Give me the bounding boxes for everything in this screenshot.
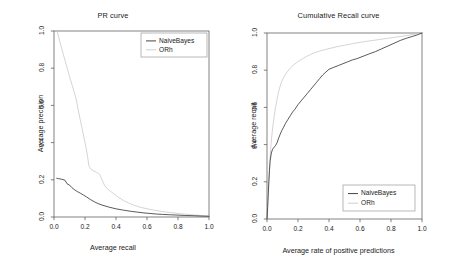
pr-y-tick-5: 1.0 <box>38 22 45 40</box>
pr-y-axis-title: Average precision <box>36 94 45 154</box>
cumrecall-x-tick-5: 1.0 <box>417 225 426 232</box>
cumrecall-x-axis-title: Average rate of positive predictions <box>226 246 451 255</box>
figure-two-panel-plots: PR curve 0.0 0.2 0.4 0.6 0.8 1.0 0.0 0.2… <box>0 0 451 269</box>
pr-x-tick-1: 0.2 <box>80 223 89 230</box>
pr-y-tick-0: 0.0 <box>38 208 45 226</box>
cumrecall-y-tick-0: 0.0 <box>251 210 258 228</box>
cumrecall-y-axis-title: Average recall <box>249 96 258 156</box>
cumrecall-y-tick-5: 1.0 <box>251 24 258 42</box>
cumrecall-y-tick-1: 0.2 <box>251 172 258 190</box>
cumrecall-x-tick-4: 0.8 <box>386 225 395 232</box>
pr-legend-label-naivebayes: NaiveBayes <box>159 37 194 44</box>
panel-pr-curve: PR curve 0.0 0.2 0.4 0.6 0.8 1.0 0.0 0.2… <box>0 0 226 269</box>
pr-x-tick-2: 0.4 <box>111 223 120 230</box>
pr-y-tick-1: 0.2 <box>38 170 45 188</box>
cumrecall-y-tick-4: 0.8 <box>251 61 258 79</box>
cumrecall-x-tick-2: 0.4 <box>324 225 333 232</box>
pr-x-axis-title: Average recall <box>0 243 226 252</box>
pr-y-tick-4: 0.8 <box>38 59 45 77</box>
cumrecall-x-tick-0: 0.0 <box>262 225 271 232</box>
pr-x-tick-4: 0.8 <box>173 223 182 230</box>
pr-legend-label-orh: ORh <box>159 46 173 53</box>
cumrecall-x-tick-1: 0.2 <box>293 225 302 232</box>
panel-cumulative-recall-curve: Cumulative Recall curve 0.0 0.2 0.4 0.6 … <box>226 0 451 269</box>
cumrecall-legend-label-orh: ORh <box>361 199 375 206</box>
pr-x-tick-0: 0.0 <box>49 223 58 230</box>
pr-x-tick-3: 0.6 <box>142 223 151 230</box>
cumrecall-x-tick-3: 0.6 <box>355 225 364 232</box>
pr-x-tick-5: 1.0 <box>204 223 213 230</box>
cumrecall-legend-label-naivebayes: NaiveBayes <box>361 189 396 196</box>
